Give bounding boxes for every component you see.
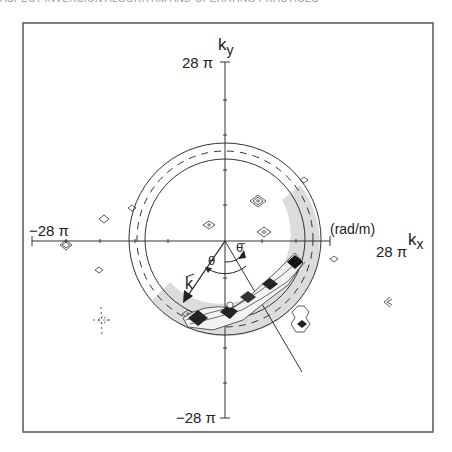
y-axis-label: ky: [218, 35, 234, 58]
units-label: (rad/m): [330, 221, 375, 237]
y-min-label: −28 π: [176, 409, 216, 426]
x-min-label: −28 π: [29, 222, 69, 239]
theta-label: θ: [208, 253, 215, 268]
k-vector-label: k: [185, 275, 194, 292]
x-max-label: 28 π: [376, 243, 407, 260]
y-max-label: 28 π: [182, 54, 213, 71]
wavenumber-spectrum-diagram: ky 28 π −28 π −28 π 28 π (rad/m) kx k θ …: [0, 0, 452, 452]
x-axis-label: kx: [408, 230, 424, 252]
